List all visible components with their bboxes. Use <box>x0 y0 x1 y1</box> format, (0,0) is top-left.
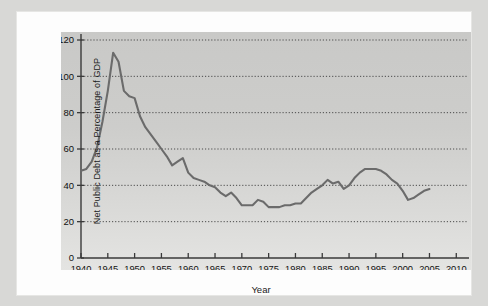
x-tick-label: 2005 <box>419 264 440 270</box>
x-tick-label: 1945 <box>97 264 118 270</box>
y-tick-label: 40 <box>63 180 74 191</box>
x-tick-label: 1940 <box>71 264 92 270</box>
x-tick-label: 2000 <box>392 264 413 270</box>
line-chart: 0204060801001201940194519501955196019651… <box>61 32 471 270</box>
y-tick-label: 60 <box>63 143 74 154</box>
x-tick-label: 1950 <box>124 264 145 270</box>
x-tick-label: 1985 <box>312 264 333 270</box>
x-tick-label: 1995 <box>366 264 387 270</box>
chart-screenshot: 0204060801001201940194519501955196019651… <box>0 0 488 306</box>
x-tick-label: 1955 <box>151 264 172 270</box>
x-tick-label: 1965 <box>205 264 226 270</box>
x-tick-label: 1975 <box>258 264 279 270</box>
x-tick-label: 1970 <box>231 264 252 270</box>
y-tick-label: 80 <box>63 107 74 118</box>
y-axis-title: Net Public Debt as a Percentage of GDP <box>92 41 102 241</box>
y-tick-label: 20 <box>63 216 74 227</box>
plot-panel: 0204060801001201940194519501955196019651… <box>61 32 471 270</box>
chart-page-frame: 0204060801001201940194519501955196019651… <box>17 12 471 295</box>
x-tick-label: 2010 <box>446 264 467 270</box>
x-tick-label: 1990 <box>339 264 360 270</box>
x-tick-label: 1960 <box>178 264 199 270</box>
y-tick-label: 100 <box>61 71 74 82</box>
x-tick-label: 1980 <box>285 264 306 270</box>
y-tick-label: 120 <box>61 34 74 45</box>
x-axis-title: Year <box>34 284 488 295</box>
y-tick-label: 0 <box>69 252 74 263</box>
